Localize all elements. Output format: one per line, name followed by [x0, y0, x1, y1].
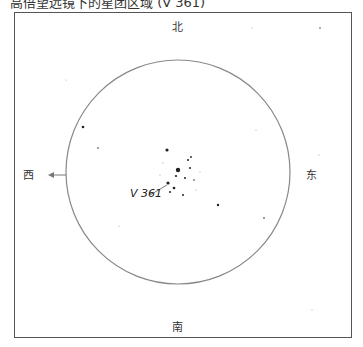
star	[176, 168, 180, 172]
star	[166, 181, 169, 184]
star	[190, 156, 192, 158]
star	[193, 179, 195, 181]
star	[312, 310, 313, 311]
star	[97, 147, 99, 149]
star	[263, 217, 265, 219]
star	[217, 204, 219, 206]
star	[175, 175, 177, 177]
stars	[66, 27, 321, 310]
star	[251, 27, 252, 28]
star	[82, 126, 85, 129]
star	[169, 191, 171, 193]
star	[319, 27, 320, 28]
star	[66, 80, 67, 81]
star	[199, 171, 200, 172]
west-label: 西	[23, 166, 34, 182]
star	[195, 189, 196, 190]
east-label: 东	[306, 166, 317, 182]
star	[184, 177, 186, 179]
star	[165, 148, 168, 151]
target-label: V 361	[130, 187, 162, 200]
star	[318, 154, 319, 155]
star	[187, 159, 189, 161]
star	[182, 194, 184, 196]
star	[189, 167, 191, 169]
west-arrow-icon	[48, 172, 66, 178]
star	[256, 130, 257, 131]
star	[162, 162, 163, 163]
star	[159, 174, 160, 175]
star	[118, 225, 119, 226]
north-label: 北	[172, 18, 183, 34]
star	[173, 187, 176, 190]
south-label: 南	[172, 318, 183, 334]
